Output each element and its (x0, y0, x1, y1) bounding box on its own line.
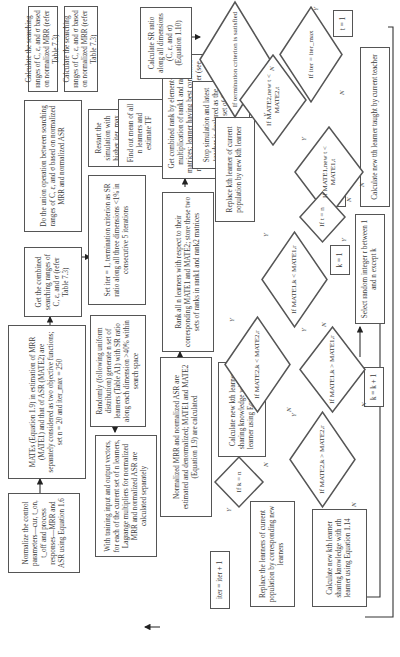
yes-label: Y (290, 413, 298, 417)
calc-range-mrr-box: Calculate the searching ranges of C, ε, … (28, 6, 58, 92)
yes-label: Y (312, 7, 320, 11)
yes-label: Y (300, 137, 308, 141)
no-label: N (350, 502, 358, 507)
normalized-mrr-box: Normalized MRR and normalized ASR are es… (160, 357, 212, 517)
training-box: With training input and output vectors, … (95, 435, 157, 557)
mate2-new-t-decision: If MATE2,new t < MATE2,t (240, 55, 306, 145)
no-label: N (262, 462, 270, 467)
mate1-k-lt-r-decision: If MATE1,k < MATE1,r (262, 232, 327, 327)
randomly-generate-box: Randomly (following uniform distribution… (90, 315, 146, 427)
find-mean-box: Find out mean of all n learners and esti… (118, 99, 163, 167)
mate2-k-lt-r-decision: If MATE2,k < MATE2,r (225, 317, 290, 412)
rank-all-box: Rank all n learners with respect to thei… (162, 192, 214, 352)
no-label: N (360, 402, 368, 407)
no-label: N (358, 182, 366, 187)
k-eq-1-box: k = 1 (330, 245, 350, 275)
k-inc-box: k = k + 1 (364, 367, 384, 407)
calc-range-asr-box: Calculate the searching ranges of C, ε, … (64, 6, 98, 92)
no-label: N (345, 197, 353, 202)
no-label: N (320, 322, 328, 327)
iter-inc-box: iter = iter + 1 (210, 551, 230, 609)
yes-label: Y (340, 238, 348, 242)
combined-ranges-box: Get the combined searching ranges of C, … (24, 247, 82, 317)
flowchart-canvas: Normalize the control parameters—cur, t_… (0, 0, 400, 657)
calc-sr-box: Calculate SR ratio along all dimensions … (140, 7, 192, 79)
select-random-box: Select random integer r between 1 and n … (355, 214, 385, 324)
yes-label: Y (300, 328, 308, 332)
set-iter-box: Set iter = 1, termination criterion as S… (88, 175, 146, 305)
k-eq-n-decision: If k = n (215, 457, 263, 507)
union-box: Do the union operation between searching… (24, 100, 82, 232)
yes-label: Y (225, 508, 233, 512)
replace-learners-box: Replace the learners of current populati… (250, 501, 295, 607)
normalize-box: Normalize the control parameters—cur, t_… (8, 493, 80, 573)
mates-objective-box: MATEs (Equation 1.9) in estimation of MR… (8, 325, 86, 479)
mate2-k-gt-r-decision: If MATE2,k > MATE2,r (290, 412, 355, 507)
yes-label: Y (228, 318, 236, 322)
no-label: N (338, 90, 346, 95)
mate1-k-gt-r-decision: If MATE1,k > MATE1,r (300, 327, 365, 412)
no-label: N (285, 407, 293, 412)
calc-new-kth-114-box: Calculate new kth learner sharing knowle… (312, 509, 367, 607)
yes-label: Y (262, 233, 270, 237)
